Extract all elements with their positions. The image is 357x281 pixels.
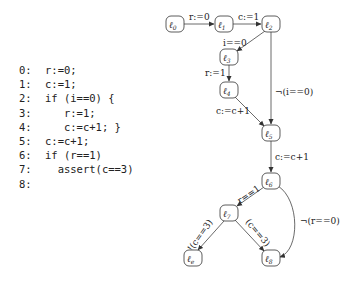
edge-label: r:=0 <box>189 12 210 22</box>
control-flow-automaton: r:=0 c:=1 i==0 ¬(i==0) r:=1 c:=c+1 c:=c+… <box>0 0 357 281</box>
edge-label: r==1 <box>235 183 261 206</box>
edge-label: c:=1 <box>238 12 259 22</box>
edge-label: i==0 <box>223 38 247 48</box>
edge-label: (c==3) <box>243 217 272 249</box>
edge-label: ¬(r==0) <box>300 216 340 226</box>
edge-l6-l8 <box>278 186 295 257</box>
edge-label: c:=c+1 <box>216 106 250 116</box>
edge-label: r:=1 <box>205 68 226 78</box>
edge-label: c:=c+1 <box>275 152 309 162</box>
edge-label: ¬(i==0) <box>275 87 313 97</box>
